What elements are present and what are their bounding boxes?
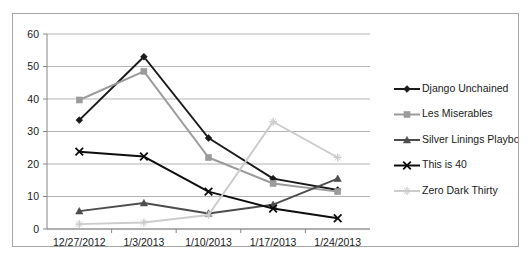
x-tick-label: 1/24/2013: [314, 236, 361, 246]
x-tick-label: 12/27/2012: [53, 236, 106, 246]
data-point-marker: [270, 181, 276, 187]
y-axis-tick-labels: 0102030405060: [27, 28, 39, 235]
data-point-marker: [76, 97, 82, 103]
x-tick-label: 1/17/2013: [250, 236, 297, 246]
legend-label: Silver Linings Playbook: [422, 133, 518, 145]
series-line: [79, 57, 337, 190]
line-chart: 0102030405060 12/27/20121/3/20131/10/201…: [13, 14, 518, 246]
data-point-marker: [334, 154, 342, 162]
y-tick-label: 20: [27, 158, 39, 170]
y-tick-label: 0: [33, 223, 39, 235]
y-tick-label: 30: [27, 125, 39, 137]
legend-item-2[interactable]: Silver Linings Playbook: [394, 133, 518, 145]
legend-label: Les Miserables: [422, 107, 493, 119]
data-point-marker: [75, 220, 83, 228]
series-2: [76, 175, 342, 216]
series-line: [79, 152, 337, 219]
y-tick-label: 60: [27, 28, 39, 40]
legend-item-0[interactable]: Django Unchained: [394, 82, 509, 94]
data-point-marker: [334, 175, 341, 181]
y-tick-label: 40: [27, 93, 39, 105]
data-point-marker: [140, 219, 148, 227]
legend-item-1[interactable]: Les Miserables: [394, 107, 493, 119]
legend-label: This is 40: [422, 158, 467, 170]
y-tick-label: 10: [27, 190, 39, 202]
legend-label: Zero Dark Thirty: [422, 184, 498, 196]
gridlines: [47, 34, 370, 229]
data-point-marker: [206, 155, 212, 161]
legend-item-3[interactable]: This is 40: [394, 158, 467, 170]
data-series-group: [75, 53, 341, 228]
y-axis-ticks: [43, 34, 47, 229]
legend-label: Django Unchained: [422, 82, 509, 94]
data-point-marker: [141, 68, 147, 74]
data-point-marker: [335, 189, 341, 195]
chart-container: 0102030405060 12/27/20121/3/20131/10/201…: [12, 13, 519, 247]
legend-item-4[interactable]: Zero Dark Thirty: [394, 184, 498, 196]
x-tick-label: 1/10/2013: [185, 236, 232, 246]
data-point-marker: [403, 187, 411, 195]
x-axis-tick-labels: 12/27/20121/3/20131/10/20131/17/20131/24…: [53, 236, 361, 246]
data-point-marker: [269, 118, 277, 126]
data-point-marker: [205, 211, 213, 219]
data-point-marker: [404, 86, 411, 93]
x-axis-ticks: [112, 229, 306, 233]
y-tick-label: 50: [27, 60, 39, 72]
series-0: [76, 53, 341, 193]
x-tick-label: 1/3/2013: [123, 236, 164, 246]
chart-legend: Django UnchainedLes MiserablesSilver Lin…: [394, 82, 518, 196]
data-point-marker: [404, 112, 410, 118]
